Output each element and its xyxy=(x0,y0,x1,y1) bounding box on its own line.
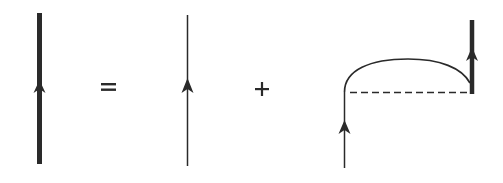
equals-operator xyxy=(101,83,116,91)
plus-vertical-bar xyxy=(261,82,263,96)
dressed-propagator xyxy=(34,13,46,164)
equals-bar-top xyxy=(101,83,116,85)
diagram-canvas xyxy=(0,0,503,183)
equals-bar-bottom xyxy=(101,89,116,91)
bare-propagator xyxy=(182,15,194,166)
plus-operator xyxy=(255,82,269,96)
arc-propagator xyxy=(345,59,471,92)
self-energy-term xyxy=(339,20,479,168)
